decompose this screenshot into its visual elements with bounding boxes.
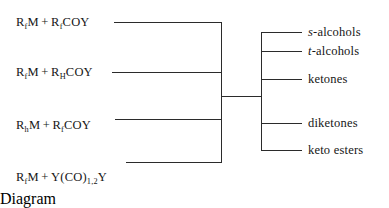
product-2-body: -alcohols xyxy=(312,44,360,58)
product-label-4: diketones xyxy=(308,117,358,130)
product-label-1: s-alcohols xyxy=(308,26,361,39)
reactant-label-3: RhM+RfCOY xyxy=(16,119,91,132)
reaction-scheme-diagram: RfM+RfCOY RfM+RHCOY RhM+RfCOY RfM+Y(CO)1… xyxy=(0,0,389,190)
product-label-2: t-alcohols xyxy=(308,45,359,58)
reactant-label-4: RfM+Y(CO)1,2Y xyxy=(16,171,107,184)
product-1-body: -alcohols xyxy=(313,25,361,39)
product-label-3: ketones xyxy=(308,73,348,86)
product-3-body: ketones xyxy=(308,72,348,86)
reactant-label-2: RfM+RHCOY xyxy=(16,66,93,79)
product-label-5: keto esters xyxy=(308,144,363,157)
product-4-body: diketones xyxy=(308,116,358,130)
reactant-label-1: RfM+RfCOY xyxy=(16,16,90,29)
product-5-body: keto esters xyxy=(308,143,363,157)
